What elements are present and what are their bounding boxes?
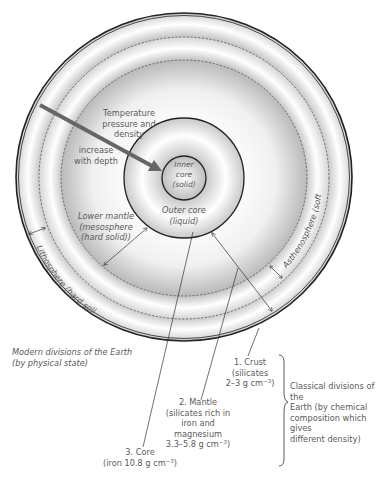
- classical-divisions-brace: [279, 355, 288, 466]
- core-label: 3. Core (iron 10.8 g cm−3): [100, 447, 180, 468]
- modern-divisions-label: Modern divisions of the Earth (by physic…: [12, 347, 152, 368]
- depth-arrow-note: Temperature pressure and density: [92, 108, 166, 140]
- crust-label: 1. Crust (silicates 2–3 g cm−3): [225, 357, 275, 389]
- inner-core-label: Inner core (solid): [164, 160, 204, 190]
- classical-divisions-label: Classical divisions of the Earth (by che…: [290, 381, 390, 445]
- lower-mantle-label: Lower mantle (mesosphere (hard solid)): [72, 211, 140, 243]
- mantle-label: 2. Mantle (silicates rich in iron and ma…: [157, 397, 239, 450]
- depth-arrow-note-2: increase with depth: [68, 145, 124, 166]
- outer-core-label: Outer core (liquid): [156, 205, 212, 226]
- crust-leader-line: [248, 328, 259, 356]
